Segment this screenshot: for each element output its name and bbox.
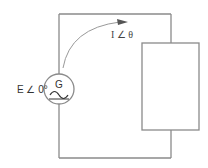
current-arrow-head-icon xyxy=(117,19,128,25)
current-label: I ∠ θ xyxy=(111,29,133,40)
sine-wave-icon xyxy=(50,92,68,99)
ac-generator-icon: G xyxy=(44,74,74,104)
generator-letter: G xyxy=(55,79,63,90)
circuit-diagram: G E ∠ 0° I ∠ θ xyxy=(0,0,208,168)
source-label: E ∠ 0° xyxy=(17,84,48,95)
load-impedance-box xyxy=(142,43,199,130)
